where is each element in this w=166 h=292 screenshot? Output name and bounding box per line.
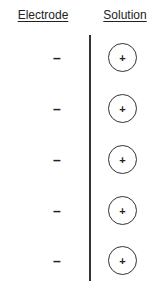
positive-ion: + bbox=[108, 145, 137, 174]
positive-ion: + bbox=[108, 94, 137, 123]
electrode-header: Electrode bbox=[10, 8, 76, 22]
interface-line bbox=[89, 35, 91, 281]
negative-charge: – bbox=[52, 52, 62, 64]
positive-ion: + bbox=[108, 196, 137, 225]
negative-charge: – bbox=[52, 154, 62, 166]
solution-header: Solution bbox=[96, 8, 154, 22]
positive-ion: + bbox=[108, 43, 137, 72]
negative-charge: – bbox=[52, 103, 62, 115]
positive-ion: + bbox=[108, 246, 137, 275]
negative-charge: – bbox=[52, 205, 62, 217]
negative-charge: – bbox=[52, 255, 62, 267]
